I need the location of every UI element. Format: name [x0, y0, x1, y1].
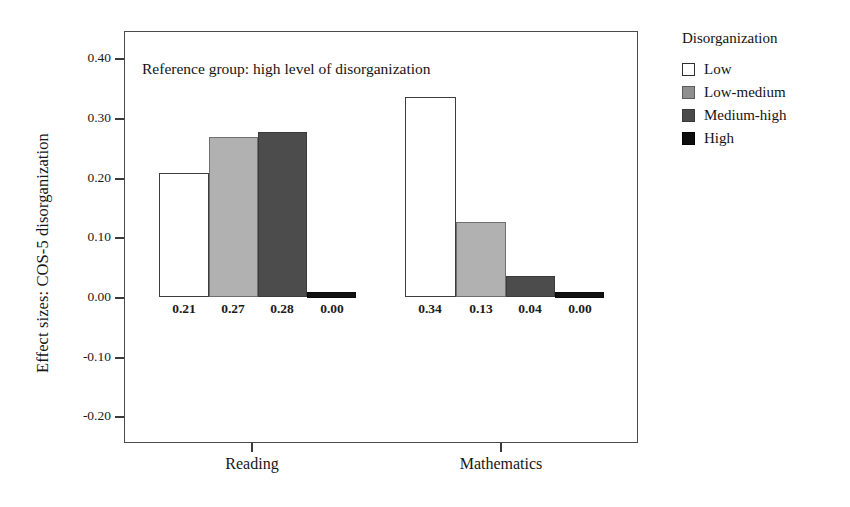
bar-reading-high [307, 292, 356, 298]
y-tick-mark [115, 357, 124, 359]
legend-item-low: Low [682, 61, 847, 78]
y-tick-label--0.20: -0.20 [41, 408, 111, 424]
y-tick-label--0.10: -0.10 [41, 349, 111, 365]
bar-mathematics-low-medium [456, 222, 506, 297]
bar-reading-medium-high [258, 132, 307, 297]
x-tick-mark-reading [251, 443, 253, 452]
y-tick-mark [115, 178, 124, 180]
bar-mathematics-high [555, 292, 604, 298]
legend-label-low-medium: Low-medium [704, 85, 786, 100]
x-category-label-reading: Reading [152, 455, 352, 473]
legend-swatch-low-icon [682, 63, 695, 76]
y-tick-mark [115, 237, 124, 239]
legend-label-low: Low [704, 62, 732, 77]
x-tick-mark-mathematics [500, 443, 502, 452]
bar-mathematics-low [405, 97, 456, 297]
legend-title: Disorganization [682, 30, 847, 47]
data-label-mathematics-high: 0.00 [550, 301, 610, 317]
reference-group-annotation: Reference group: high level of disorgani… [142, 60, 431, 78]
y-tick-mark [115, 118, 124, 120]
x-category-label-mathematics: Mathematics [401, 455, 601, 473]
legend-label-medium-high: Medium-high [704, 108, 787, 123]
effect-sizes-bar-chart: Effect sizes: COS-5 disorganization 0.40… [0, 0, 850, 507]
y-axis-title: Effect sizes: COS-5 disorganization [33, 88, 53, 418]
data-label-reading-high: 0.00 [302, 301, 362, 317]
y-tick-label-0.10: 0.10 [41, 229, 111, 245]
bar-mathematics-medium-high [506, 276, 555, 297]
y-tick-mark [115, 58, 124, 60]
legend-swatch-high-icon [682, 132, 695, 145]
y-tick-mark [115, 297, 124, 299]
y-tick-label-0.00: 0.00 [41, 289, 111, 305]
legend-swatch-low-medium-icon [682, 86, 695, 99]
y-tick-mark [115, 416, 124, 418]
legend: Disorganization Low Low-medium Medium-hi… [682, 30, 847, 153]
legend-item-high: High [682, 130, 847, 147]
y-tick-label-0.40: 0.40 [41, 50, 111, 66]
legend-swatch-medium-high-icon [682, 109, 695, 122]
legend-item-low-medium: Low-medium [682, 84, 847, 101]
legend-label-high: High [704, 131, 734, 146]
y-tick-label-0.20: 0.20 [41, 170, 111, 186]
legend-item-medium-high: Medium-high [682, 107, 847, 124]
y-tick-label-0.30: 0.30 [41, 110, 111, 126]
bar-reading-low-medium [209, 137, 258, 297]
bar-reading-low [159, 173, 209, 297]
